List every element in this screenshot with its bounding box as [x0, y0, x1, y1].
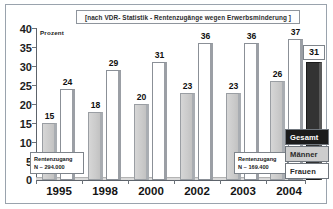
y-tick-35: 35 — [8, 43, 32, 54]
y-tick-40: 40 — [8, 24, 32, 35]
x-label-1998: 1998 — [82, 186, 128, 198]
bar-value-1998-frauen: 29 — [109, 59, 119, 68]
y-tick-15: 15 — [8, 119, 32, 130]
chart-legend: Gesamt Männer Frauen — [285, 129, 329, 180]
bar-value-2004-maenner: 26 — [273, 70, 283, 79]
bar-value-1998-maenner: 18 — [91, 101, 101, 110]
x-tickmark-4 — [220, 180, 221, 184]
bar-value-2002-frauen: 36 — [201, 32, 211, 41]
annotation-line-1: Rentenzugang — [238, 155, 284, 163]
x-tickmark-6 — [305, 180, 306, 184]
bar-group-2000: 20 31 — [130, 28, 174, 180]
annotation-line-1: Rentenzugang — [34, 155, 80, 163]
legend-item-maenner[interactable]: Männer — [285, 146, 329, 162]
bar-group-2002: 23 36 — [176, 28, 220, 180]
x-tickmark-3 — [174, 180, 175, 184]
bar-body — [88, 112, 103, 180]
bar-body — [198, 43, 213, 180]
bar-value-1995-frauen: 24 — [63, 78, 73, 87]
bar-value-1995-maenner: 15 — [45, 112, 55, 121]
bar-body — [180, 93, 195, 180]
bar-value-2003-maenner: 23 — [229, 82, 239, 91]
legend-item-gesamt[interactable]: Gesamt — [285, 129, 329, 145]
y-tick-5: 5 — [8, 157, 32, 168]
bar-2002-frauen[interactable]: 36 — [198, 43, 213, 180]
bar-value-2004-frauen: 37 — [291, 28, 301, 37]
x-tickmark-1 — [82, 180, 83, 184]
x-tickmark-2 — [128, 180, 129, 184]
bar-body — [106, 70, 121, 180]
annotation-line-2: N ~ 169.400 — [238, 163, 284, 171]
bar-2000-frauen[interactable]: 31 — [152, 62, 167, 180]
bar-value-2000-maenner: 20 — [137, 93, 147, 102]
y-tick-0: 0 — [8, 175, 32, 186]
y-tick-25: 25 — [8, 81, 32, 92]
x-label-2003: 2003 — [220, 186, 266, 198]
y-tick-20: 20 — [8, 100, 32, 111]
bar-2000-maenner[interactable]: 20 — [134, 104, 149, 180]
bar-1998-frauen[interactable]: 29 — [106, 70, 121, 180]
bar-body — [134, 104, 149, 180]
legend-item-frauen[interactable]: Frauen — [285, 163, 329, 179]
x-tickmark-0 — [36, 180, 37, 184]
bar-value-2004-gesamt: 31 — [303, 45, 325, 60]
annotation-line-2: N ~ 294.000 — [34, 163, 80, 171]
annotation-rentenzugang-2004: Rentenzugang N ~ 169.400 — [234, 152, 288, 174]
bar-value-2002-maenner: 23 — [183, 82, 193, 91]
chart-title: [nach VDR- Statistik - Rentenzugänge weg… — [76, 10, 300, 24]
bar-group-1998: 18 29 — [84, 28, 128, 180]
x-label-2000: 2000 — [128, 186, 174, 198]
bar-2002-maenner[interactable]: 23 — [180, 93, 195, 180]
y-axis-labels: 40 35 30 25 20 15 10 5 0 — [4, 0, 32, 209]
y-tick-10: 10 — [8, 138, 32, 149]
x-label-2002: 2002 — [174, 186, 220, 198]
chart-figure: [nach VDR- Statistik - Rentenzugänge weg… — [0, 0, 333, 209]
bar-1998-maenner[interactable]: 18 — [88, 112, 103, 180]
bar-value-2003-frauen: 36 — [247, 32, 257, 41]
bar-value-2000-frauen: 31 — [155, 51, 165, 60]
bar-body — [152, 62, 167, 180]
x-label-2004: 2004 — [266, 186, 312, 198]
annotation-rentenzugang-1995: Rentenzugang N ~ 294.000 — [30, 152, 84, 174]
x-label-1995: 1995 — [36, 186, 82, 198]
y-tick-30: 30 — [8, 62, 32, 73]
x-tickmark-5 — [266, 180, 267, 184]
